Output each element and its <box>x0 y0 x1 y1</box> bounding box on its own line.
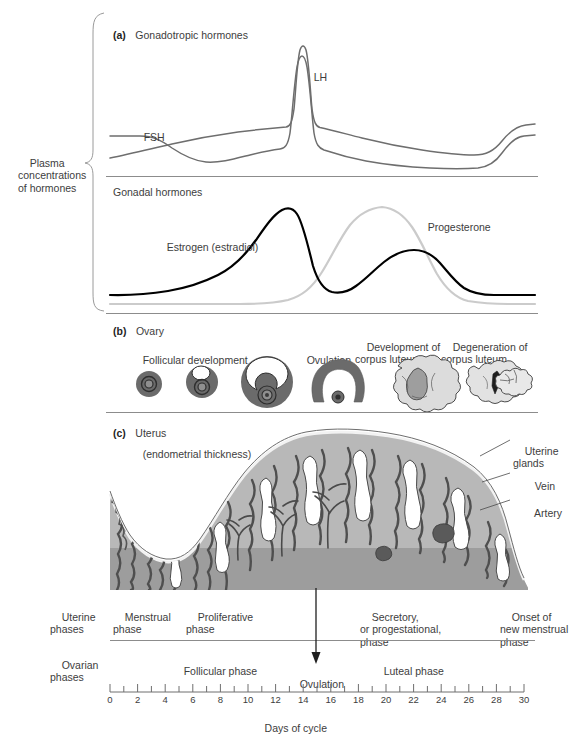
days-of-cycle-text: Days of cycle <box>265 722 327 734</box>
callout-artery: Artery <box>523 494 562 532</box>
axis-tick-labels: 0 2 4 6 8 10 12 14 16 18 20 22 24 26 28 … <box>107 694 529 705</box>
leader-uterine-glands <box>480 440 510 456</box>
progesterone-label-text: Progesterone <box>428 221 491 233</box>
estrogen-label-text: Estrogen (estradiol) <box>167 241 259 253</box>
panel-b-heading: (b) Ovary <box>113 321 164 339</box>
ovarian-phase-text-2: Luteal phase <box>384 665 444 677</box>
plasma-concentrations-label: Plasma concentrations of hormones <box>18 144 88 207</box>
uterine-phase-text-2: Secretory, or progestational, phase <box>360 611 441 648</box>
tick-label-4: 4 <box>163 694 168 705</box>
fsh-curve-label: FSH <box>132 118 165 156</box>
panel-a-heading: (a) Gonadotropic hormones <box>113 25 248 43</box>
tick-label-6: 6 <box>190 694 195 705</box>
days-axis: 0 2 4 6 8 10 12 14 16 18 20 22 24 26 28 … <box>104 680 544 704</box>
plasma-concentrations-text: Plasma concentrations of hormones <box>18 157 86 194</box>
ovarian-phases-side-label: Ovarian phases <box>50 646 98 696</box>
tick-label-0: 0 <box>107 694 112 705</box>
panel-a-tag: (a) <box>113 29 126 41</box>
divider-gonadal <box>106 313 538 314</box>
tick-label-12: 12 <box>270 694 281 705</box>
axis-ticks <box>110 684 524 692</box>
ovary-illustrations-svg <box>130 356 530 408</box>
tick-label-20: 20 <box>381 694 392 705</box>
ovarian-phase-text-0: Follicular phase <box>184 665 258 677</box>
follicle-stage-1 <box>136 371 162 397</box>
panel-b-tag: (b) <box>113 325 126 337</box>
leader-artery <box>480 500 510 510</box>
tick-label-30: 30 <box>519 694 530 705</box>
ovarian-phases-side-text: Ovarian phases <box>50 659 98 684</box>
tick-label-2: 2 <box>135 694 140 705</box>
uterine-phase-text-0: Menstrual phase <box>113 611 171 636</box>
divider-ovary <box>106 412 538 413</box>
lh-curve-label: LH <box>302 58 327 96</box>
follicle-stage-4-ovulation <box>312 359 364 403</box>
panel-a-title: Gonadotropic hormones <box>135 29 248 41</box>
tick-label-16: 16 <box>326 694 337 705</box>
lh-label-text: LH <box>314 71 327 83</box>
endometrium-illustration <box>110 430 528 590</box>
tick-label-8: 8 <box>218 694 223 705</box>
progesterone-curve-label: Progesterone <box>416 208 491 246</box>
uterine-phase-text-3: Onset of new menstrual phase <box>500 611 568 648</box>
tick-label-18: 18 <box>353 694 364 705</box>
tick-label-22: 22 <box>408 694 419 705</box>
estrogen-curve-label: Estrogen (estradiol) <box>155 228 258 266</box>
leader-vein <box>482 473 510 482</box>
uterine-phases-side-label: Uterine phases <box>50 598 96 648</box>
ovary-illustrations <box>130 356 530 408</box>
days-axis-svg: 0 2 4 6 8 10 12 14 16 18 20 22 24 26 28 … <box>104 680 544 704</box>
tick-label-28: 28 <box>491 694 502 705</box>
days-of-cycle-label: Days of cycle <box>0 709 580 738</box>
uterine-phase-text-1: Proliferative phase <box>186 611 253 636</box>
divider-panel-a <box>106 176 538 177</box>
follicle-stage-3 <box>241 356 293 408</box>
endometrium-svg <box>110 430 528 590</box>
tick-label-24: 24 <box>436 694 447 705</box>
tick-label-10: 10 <box>243 694 254 705</box>
tick-label-26: 26 <box>464 694 475 705</box>
ovulation-arrow <box>306 588 326 668</box>
uterine-phases-side-text: Uterine phases <box>50 611 96 636</box>
corpus-luteum-developing <box>393 355 460 412</box>
callout-artery-text: Artery <box>534 507 562 519</box>
callout-vein-text: Vein <box>535 480 555 492</box>
panel-b-title: Ovary <box>136 325 164 337</box>
callout-uterine-glands-text: Uterine glands <box>513 445 559 470</box>
uterine-phase-onset: Onset of new menstrual phase <box>500 598 568 661</box>
tick-label-14: 14 <box>298 694 309 705</box>
fsh-label-text: FSH <box>144 131 165 143</box>
follicle-stage-2 <box>186 366 218 398</box>
